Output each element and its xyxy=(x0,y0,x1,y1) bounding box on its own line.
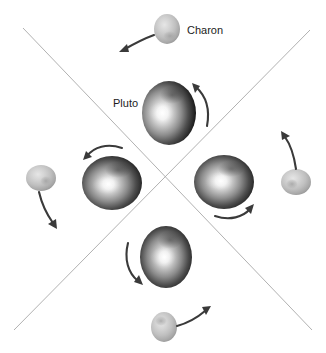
charon-sphere-bottom xyxy=(151,312,177,342)
motion-arrow-path-left xyxy=(39,192,53,223)
rotation-arrow-path-left xyxy=(87,146,122,156)
motion-arrow-head-top xyxy=(119,44,129,52)
charon-surface-spot-top xyxy=(163,31,177,41)
pluto-body-right xyxy=(194,155,254,209)
charon-label: Charon xyxy=(187,24,223,36)
motion-arrow-path-bottom xyxy=(177,311,205,326)
pluto-surface-dark-patch-top xyxy=(160,86,184,104)
pluto-surface-dark-patch-bottom xyxy=(158,231,182,249)
charon-body-left xyxy=(26,165,56,191)
rotation-arrow-path-right xyxy=(215,209,250,218)
pluto-surface-highlight-left xyxy=(92,176,120,194)
pluto-body-bottom xyxy=(140,226,192,288)
charon-surface-spot-bottom xyxy=(155,316,167,326)
pluto-surface-highlight-top xyxy=(148,102,174,122)
charon-motion-arrow-left xyxy=(39,192,57,229)
charon-body-top xyxy=(154,14,180,44)
charon-surface-spot-left xyxy=(40,176,52,186)
pluto-surface-dark-patch-right xyxy=(218,161,244,177)
charon-body-right xyxy=(281,169,311,195)
charon-motion-arrow-bottom xyxy=(177,306,211,326)
pluto-body-left xyxy=(82,156,142,210)
charon-sphere-left xyxy=(26,165,56,191)
motion-arrow-path-right xyxy=(285,137,296,169)
pluto-label: Pluto xyxy=(113,97,138,109)
rotation-arrow-path-top xyxy=(196,87,208,126)
diagram-canvas: Pluto xyxy=(0,0,326,353)
pluto-body-top xyxy=(142,81,196,145)
pluto-surface-highlight-bottom xyxy=(150,247,176,267)
rotation-arrow-path-bottom xyxy=(126,243,138,281)
rotation-arrow-head-top xyxy=(192,83,200,93)
charon-surface-spot-right xyxy=(286,179,298,189)
pluto-surface-dark-patch-left xyxy=(105,162,131,178)
pluto-charon-diagram: Pluto xyxy=(0,0,326,353)
motion-arrow-path-top xyxy=(125,35,154,49)
pluto-rotation-arrow-bottom xyxy=(126,243,143,285)
charon-motion-arrow-top xyxy=(119,35,154,52)
charon-motion-arrow-right xyxy=(281,131,296,169)
charon-body-bottom xyxy=(151,312,177,342)
